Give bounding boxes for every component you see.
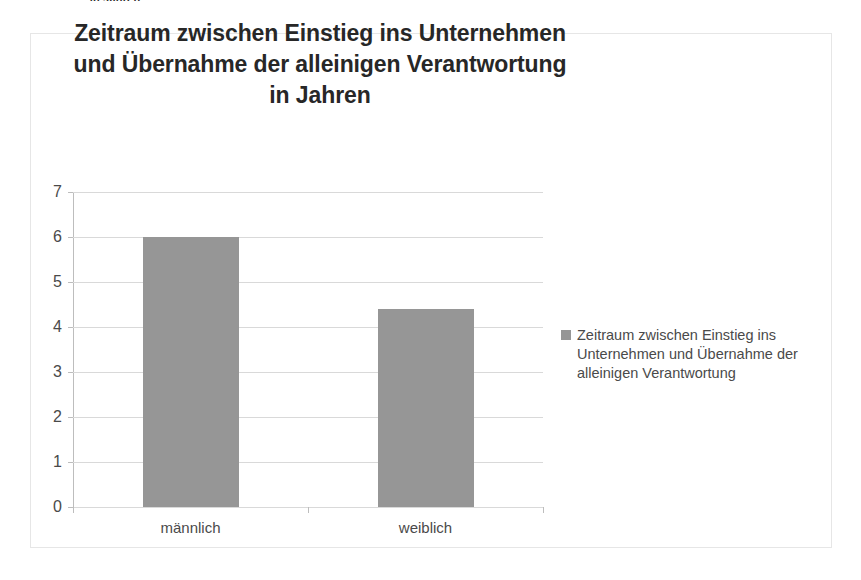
y-tick-label: 0 [53, 499, 62, 515]
chart-title-line-1: Zeitraum zwischen Einstieg ins Unternehm… [40, 18, 600, 49]
y-tick-label: 4 [53, 319, 62, 335]
y-tick-label: 3 [53, 364, 62, 380]
y-tick-label: 2 [53, 409, 62, 425]
chart-legend: Zeitraum zwischen Einstieg ins Unternehm… [561, 326, 811, 383]
y-tick-mark [68, 372, 73, 373]
y-tick-mark [68, 417, 73, 418]
y-tick-label: 6 [53, 229, 62, 245]
x-tick-label: weiblich [308, 519, 543, 536]
x-tick-mark [543, 507, 544, 513]
chart-title-line-2: und Übernahme der alleinigen Verantwortu… [40, 49, 600, 80]
y-tick-mark [68, 462, 73, 463]
y-tick-mark [68, 282, 73, 283]
y-tick-label: 5 [53, 274, 62, 290]
y-axis-line [73, 192, 74, 508]
y-tick-mark [68, 192, 73, 193]
x-tick-mark [308, 507, 309, 513]
gridline [73, 192, 543, 193]
x-tick-mark [73, 507, 74, 513]
bar [378, 309, 474, 507]
y-tick-mark [68, 327, 73, 328]
legend-color-swatch [561, 330, 571, 340]
chart-title: Zeitraum zwischen Einstieg ins Unternehm… [40, 18, 600, 111]
plot-area: 01234567 männlichweiblich [73, 192, 543, 507]
y-tick-mark [68, 237, 73, 238]
page-caption-fragment: in Jahren [0, 0, 230, 1]
bar [143, 237, 239, 507]
y-tick-label: 1 [53, 454, 62, 470]
x-tick-label: männlich [73, 519, 308, 536]
y-tick-label: 7 [53, 184, 62, 200]
legend-item: Zeitraum zwischen Einstieg ins Unternehm… [561, 326, 811, 383]
legend-item-label: Zeitraum zwischen Einstieg ins Unternehm… [577, 326, 811, 383]
chart-title-line-3: in Jahren [40, 80, 600, 111]
